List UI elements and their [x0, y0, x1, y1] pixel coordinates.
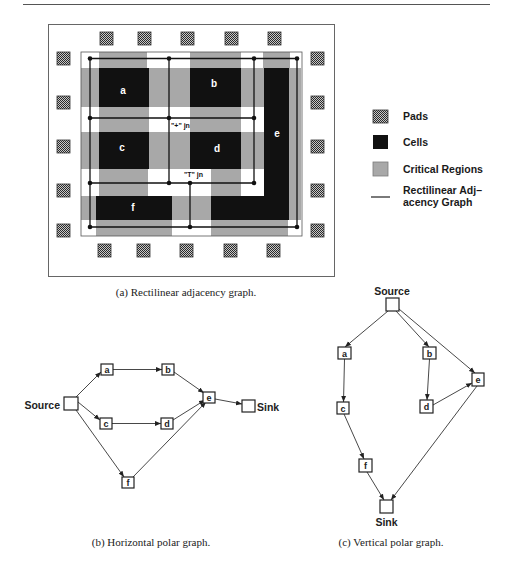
sink-label: Sink	[257, 401, 279, 413]
node-e-label: e	[206, 393, 211, 403]
critical-region	[81, 196, 96, 220]
pad-icon	[311, 184, 324, 197]
critical-region	[190, 107, 241, 132]
cell-e	[211, 196, 289, 220]
pad-icon	[180, 244, 193, 257]
critical-region	[241, 132, 264, 169]
critical-region	[99, 107, 149, 132]
graph-node	[88, 116, 93, 121]
cell-label-e: e	[274, 128, 280, 139]
node-d-label: d	[424, 402, 430, 412]
sink-node	[242, 400, 255, 412]
edge-c-f	[344, 414, 364, 459]
graph-node	[88, 225, 93, 230]
critical-region	[211, 220, 288, 236]
graph-node	[167, 181, 172, 186]
graph-node	[295, 225, 300, 230]
graph-node	[88, 181, 93, 186]
node-b-label: b	[165, 365, 171, 375]
source-label: Source	[374, 285, 410, 297]
critical-region	[263, 52, 290, 68]
edge-source-b	[396, 311, 429, 347]
pad-icon	[98, 244, 111, 257]
vertical-polar-graph: Source a b c d e f Sink	[337, 285, 484, 528]
graph-node	[167, 56, 172, 61]
pad-icon	[57, 184, 70, 197]
edge-f-sink	[367, 472, 384, 500]
legend: Pads Cells Critical Regions Rectilinear …	[371, 110, 483, 208]
critical-region	[190, 52, 241, 68]
legend-critical-swatch-icon	[373, 162, 388, 176]
pad-icon	[181, 32, 194, 45]
pad-icon	[57, 52, 70, 65]
node-b-label: b	[427, 349, 433, 359]
horizontal-polar-graph: Source a b c d e f Sink	[24, 364, 279, 488]
graph-node	[252, 181, 257, 186]
source-node	[64, 397, 78, 410]
tee-junction-label: "T" jn	[184, 171, 203, 179]
figure-a-layout: a b c d e f "+" jn "T" jn	[49, 25, 335, 277]
critical-region	[99, 52, 147, 68]
node-c-label: c	[340, 404, 345, 414]
pad-icon	[138, 32, 151, 45]
source-node	[386, 298, 399, 311]
graph-node	[188, 181, 193, 186]
edge-b-e	[174, 372, 204, 393]
edge-f-e	[133, 402, 206, 477]
legend-pads-label: Pads	[403, 110, 428, 122]
edge-source-a	[345, 311, 388, 347]
edge-d-e	[433, 383, 472, 405]
legend-graph-label-line1: Rectilinear Adj–	[403, 184, 482, 196]
critical-region	[288, 68, 301, 220]
legend-critical-label: Critical Regions	[403, 163, 483, 175]
figure-page: a b c d e f "+" jn "T" jn Pads Cells Cri…	[0, 0, 511, 578]
pad-icon	[57, 140, 70, 153]
pad-icon	[137, 244, 150, 257]
pad-icon	[267, 244, 280, 257]
node-d-label: d	[164, 419, 170, 429]
pad-icon	[224, 244, 237, 257]
graph-node	[295, 56, 300, 61]
pad-icon	[225, 32, 238, 45]
pad-icon	[57, 224, 70, 237]
pad-icon	[268, 32, 281, 45]
node-e-label: e	[475, 375, 480, 385]
edge-source-a	[76, 372, 101, 397]
source-label: Source	[24, 399, 60, 411]
graph-node	[252, 116, 257, 121]
graph-node	[167, 116, 172, 121]
pad-icon	[311, 52, 324, 65]
pad-icon	[311, 140, 324, 153]
caption-b: (b) Horizontal polar graph.	[92, 536, 211, 549]
graph-node	[188, 225, 193, 230]
sink-node	[380, 500, 393, 513]
legend-cells-label: Cells	[403, 136, 428, 148]
caption-c: (c) Vertical polar graph.	[339, 536, 444, 549]
cell-label-b: b	[211, 78, 217, 89]
edge-e-sink	[215, 399, 242, 404]
pad-icon	[100, 32, 113, 45]
critical-region	[96, 220, 172, 236]
sink-label: Sink	[375, 516, 397, 528]
edge-source-e	[399, 309, 475, 373]
pad-icon	[311, 224, 324, 237]
critical-region	[241, 68, 264, 107]
edge-e-sink	[391, 386, 477, 500]
edge-b-d	[427, 359, 430, 400]
edge-a-c	[344, 359, 345, 402]
pad-icon	[311, 96, 324, 109]
node-c-label: c	[103, 419, 108, 429]
cell-label-d: d	[214, 143, 220, 154]
critical-region	[172, 196, 211, 220]
cell-label-c: c	[119, 142, 125, 153]
cell-label-a: a	[120, 85, 126, 96]
legend-pads-swatch-icon	[373, 110, 388, 123]
plus-junction-label: "+" jn	[171, 122, 190, 130]
legend-graph-label-line2: acency Graph	[403, 196, 472, 208]
legend-cells-swatch-icon	[373, 135, 388, 149]
caption-a: (a) Rectilinear adjacency graph.	[116, 286, 257, 299]
edge-d-e	[173, 400, 205, 420]
graph-node	[88, 56, 93, 61]
graph-node	[252, 56, 257, 61]
pad-icon	[57, 96, 70, 109]
